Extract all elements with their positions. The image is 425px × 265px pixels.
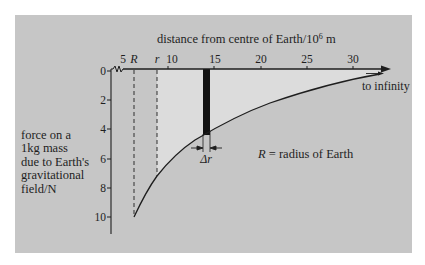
delta-r-strip: [203, 69, 210, 135]
y-axis-title-line: 1kg mass: [21, 142, 101, 155]
y-tick-10: 10: [95, 211, 107, 223]
R-legend: R = radius of Earth: [257, 147, 354, 161]
y-tick-8: 8: [100, 182, 106, 194]
x-tick-10: 10: [166, 53, 178, 65]
x-axis-arrow-icon: [381, 66, 391, 73]
x-tick-25: 25: [301, 53, 313, 65]
R-marker-label: R: [129, 52, 138, 66]
y-axis-title-line: due to Earth's: [21, 156, 101, 169]
y-tick-6: 6: [100, 153, 106, 165]
x-tick-30: 30: [347, 53, 359, 65]
y-axis-title-line: force on a: [21, 129, 101, 142]
y-tick-4: 4: [100, 123, 106, 135]
delta-r-label: Δr: [199, 152, 212, 166]
delta-r-arrows: [191, 146, 222, 150]
y-axis-title-line: field/N: [21, 183, 101, 196]
y-tick-0: 0: [100, 65, 106, 77]
x-axis-break-icon: [111, 66, 123, 72]
x-axis-title: distance from centre of Earth/106 m: [157, 32, 336, 46]
x-tick-20: 20: [255, 53, 267, 65]
to-infinity-label: to infinity: [362, 79, 410, 93]
y-axis-ticks: [107, 71, 111, 217]
y-tick-2: 2: [100, 94, 106, 106]
x-tick-5: 5: [120, 53, 126, 65]
x-tick-15: 15: [209, 53, 221, 65]
y-axis-title-line: gravitational: [21, 169, 101, 182]
y-axis-title: force on a 1kg mass due to Earth's gravi…: [21, 129, 101, 196]
r-marker-label: r: [155, 52, 160, 66]
